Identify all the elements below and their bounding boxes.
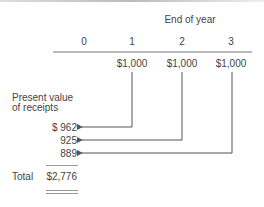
arrow-year-1 [82,72,132,127]
diagram-lines [0,0,264,207]
arrow-year-3 [82,72,232,153]
